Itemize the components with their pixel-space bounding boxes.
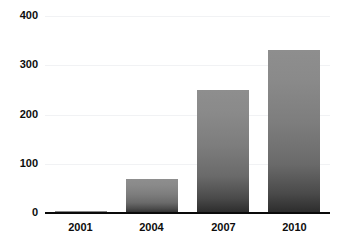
x-tick-label-2001: 2001 — [45, 221, 116, 233]
x-tick-label-2004: 2004 — [116, 221, 187, 233]
y-tick-label-200: 200 — [0, 109, 38, 120]
y-tick-label-300: 300 — [0, 59, 38, 70]
bar-2007 — [197, 90, 249, 213]
bar-2010 — [268, 50, 320, 213]
bar-chart: 0100200300400 2001200420072010 — [0, 0, 337, 239]
x-tick-label-2010: 2010 — [259, 221, 330, 233]
y-tick-label-400: 400 — [0, 10, 38, 21]
y-tick-label-100: 100 — [0, 158, 38, 169]
x-axis-line — [45, 212, 330, 214]
gridline-400 — [45, 16, 330, 17]
y-tick-label-0: 0 — [0, 207, 38, 218]
bar-2004 — [126, 179, 178, 213]
x-tick-label-2007: 2007 — [188, 221, 259, 233]
